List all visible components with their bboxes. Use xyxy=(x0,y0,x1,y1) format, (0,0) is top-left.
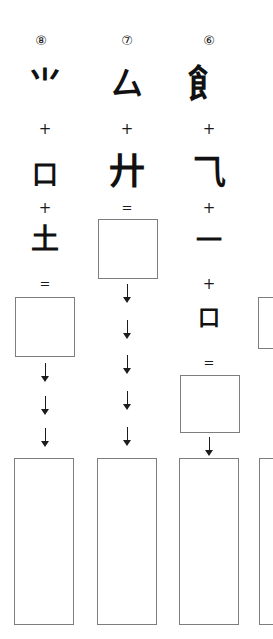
result-answer-box[interactable] xyxy=(98,219,158,279)
arrow-head xyxy=(41,409,49,415)
result-answer-box[interactable] xyxy=(180,375,240,433)
result-answer-box[interactable] xyxy=(15,297,75,357)
arrow-head xyxy=(123,297,131,303)
plus-operator: + xyxy=(194,201,224,216)
arrow-head xyxy=(123,333,131,339)
final-answer-box[interactable] xyxy=(259,458,273,625)
down-arrow-icon xyxy=(40,428,51,447)
arrow-shaft xyxy=(127,320,128,334)
component-glyph: 口 xyxy=(179,307,239,329)
column-index-8: ⑧ xyxy=(30,30,52,52)
component-glyph: 厶 xyxy=(97,68,157,100)
equals-operator: = xyxy=(30,277,60,290)
worksheet-canvas: ⑧⺌口土++=⑦厶廾+=⑥飠⺄一口+++= xyxy=(0,0,273,639)
arrow-shaft xyxy=(209,437,210,451)
component-glyph: ⺄ xyxy=(179,155,239,189)
arrow-head xyxy=(123,440,131,446)
column-index-6: ⑥ xyxy=(198,30,220,52)
plus-operator: + xyxy=(30,122,60,137)
down-arrow-icon xyxy=(122,355,133,374)
component-glyph: ⺌ xyxy=(15,67,75,101)
down-arrow-icon xyxy=(122,391,133,410)
down-arrow-icon xyxy=(122,427,133,446)
final-answer-box[interactable] xyxy=(97,458,157,625)
final-answer-box[interactable] xyxy=(179,458,239,625)
arrow-head xyxy=(123,368,131,374)
arrow-head xyxy=(41,441,49,447)
component-glyph: 一 xyxy=(179,227,239,253)
component-glyph: 口 xyxy=(15,162,75,188)
plus-operator: + xyxy=(112,122,142,137)
component-glyph: 土 xyxy=(15,226,75,254)
equals-operator: = xyxy=(112,201,142,214)
arrow-shaft xyxy=(127,427,128,441)
component-glyph: 飠 xyxy=(177,65,237,103)
plus-operator: + xyxy=(194,277,224,292)
down-arrow-icon xyxy=(122,320,133,339)
component-glyph: 廾 xyxy=(97,154,157,190)
arrow-head xyxy=(41,376,49,382)
plus-operator: + xyxy=(30,201,60,216)
column-index-7: ⑦ xyxy=(116,30,138,52)
down-arrow-icon xyxy=(122,284,133,303)
arrow-shaft xyxy=(127,355,128,369)
down-arrow-icon xyxy=(40,396,51,415)
arrow-shaft xyxy=(127,284,128,298)
result-answer-box[interactable] xyxy=(258,297,273,349)
arrow-head xyxy=(205,450,213,456)
final-answer-box[interactable] xyxy=(14,458,74,625)
arrow-shaft xyxy=(45,396,46,410)
equals-operator: = xyxy=(194,356,224,369)
down-arrow-icon xyxy=(204,437,215,456)
arrow-shaft xyxy=(45,363,46,377)
down-arrow-icon xyxy=(40,363,51,382)
arrow-head xyxy=(123,404,131,410)
arrow-shaft xyxy=(127,391,128,405)
arrow-shaft xyxy=(45,428,46,442)
plus-operator: + xyxy=(194,122,224,137)
